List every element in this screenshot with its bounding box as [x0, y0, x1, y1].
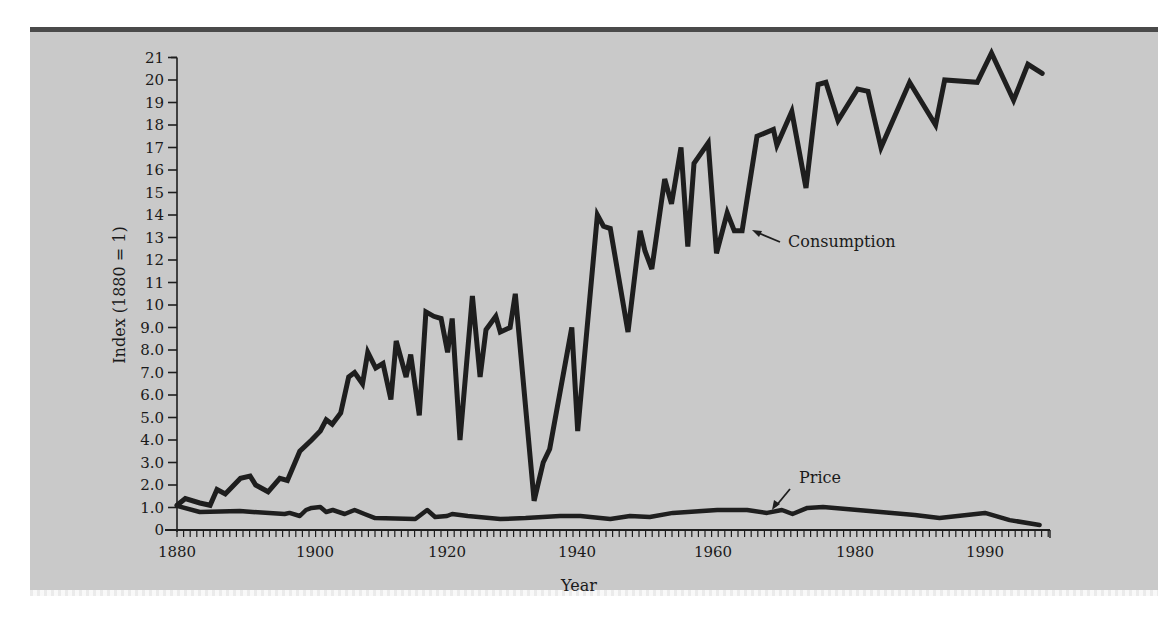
y-axis-title: Index (1880 = 1): [110, 226, 129, 363]
x-tick-label: 1940: [558, 543, 596, 561]
y-tick-label: 14: [145, 206, 164, 224]
y-tick-label: 19: [145, 94, 164, 112]
y-tick-label: 20: [145, 71, 164, 89]
price-line: [177, 506, 1040, 525]
x-tick-label: 1880: [158, 543, 196, 561]
y-tick-label: 4.0: [140, 431, 164, 449]
y-tick-label: 1.0: [140, 499, 164, 517]
consumption-label: Consumption: [788, 232, 896, 251]
x-tick-label: 1980: [836, 543, 874, 561]
y-tick-label: 17: [145, 139, 164, 157]
y-tick-label: 9.0: [140, 319, 164, 337]
y-tick-label: 5.0: [140, 409, 164, 427]
x-tick-label: 1960: [694, 543, 732, 561]
y-tick-label: 16: [145, 161, 164, 179]
y-tick-label: 3.0: [140, 454, 164, 472]
y-tick-label: 18: [145, 116, 164, 134]
y-tick-label: 2.0: [140, 476, 164, 494]
y-tick-label: 12: [145, 251, 164, 269]
x-tick-label: 1920: [428, 543, 466, 561]
y-tick-label: 0: [154, 521, 164, 539]
consumption-annotation: Consumption: [752, 230, 896, 251]
y-tick-label: 7.0: [140, 364, 164, 382]
y-tick-label: 11: [145, 274, 164, 292]
y-tick-label: 13: [145, 229, 164, 247]
consumption-arrowhead-icon: [752, 230, 762, 237]
y-axis: 01.02.03.04.05.06.07.08.09.0101112131415…: [140, 49, 177, 540]
y-tick-label: 10: [145, 296, 164, 314]
y-tick-label: 8.0: [140, 341, 164, 359]
price-annotation: Price: [772, 468, 841, 510]
consumption-line: [177, 53, 1042, 505]
y-tick-label: 15: [145, 184, 164, 202]
price-label: Price: [799, 468, 841, 487]
x-tick-label: 1900: [296, 543, 334, 561]
x-axis: 1880190019201940196019801990: [158, 530, 1050, 561]
y-tick-label: 21: [145, 49, 164, 67]
y-tick-label: 6.0: [140, 386, 164, 404]
chart-svg: 01.02.03.04.05.06.07.08.09.0101112131415…: [0, 0, 1176, 617]
x-tick-label: 1990: [966, 543, 1004, 561]
x-axis-title: Year: [560, 576, 597, 595]
